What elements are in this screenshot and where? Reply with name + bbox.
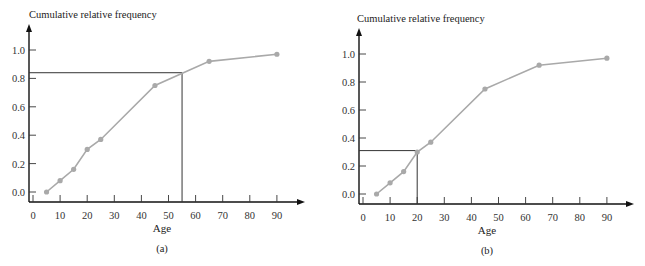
y-axis-arrow-icon	[356, 28, 362, 36]
axes: 01020304050607080900.00.20.40.60.81.0	[12, 24, 305, 221]
data-point	[71, 167, 76, 172]
reference-lines	[359, 151, 417, 204]
x-tick-label: 60	[190, 210, 201, 221]
reference-lines	[29, 73, 182, 202]
x-axis-title: Age	[478, 224, 496, 236]
x-tick-label: 80	[245, 210, 256, 221]
data-point	[152, 83, 157, 88]
x-axis-title: Age	[153, 222, 171, 234]
chart-panel-a: Cumulative relative frequency Age (a) 01…	[12, 9, 305, 255]
data-point	[85, 147, 90, 152]
data-point	[98, 137, 103, 142]
y-tick-label: 0.8	[342, 77, 355, 88]
x-tick-label: 80	[575, 212, 586, 223]
data-point	[58, 178, 63, 183]
data-point	[374, 191, 379, 196]
y-axis-title: Cumulative relative frequency	[357, 13, 485, 24]
data-point	[604, 56, 609, 61]
data-point	[274, 52, 279, 57]
data-point	[537, 63, 542, 68]
y-tick-label: 0.4	[342, 133, 356, 144]
panel-caption: (a)	[156, 243, 168, 255]
y-tick-label: 0.2	[12, 159, 25, 170]
x-tick-label: 10	[55, 210, 66, 221]
x-tick-label: 20	[82, 210, 93, 221]
series-line	[377, 58, 607, 194]
x-tick-label: 60	[520, 212, 531, 223]
y-tick-label: 1.0	[12, 45, 25, 56]
y-tick-label: 0.6	[342, 105, 355, 116]
chart-panel-b: Cumulative relative frequency Age (b) 01…	[342, 13, 634, 257]
x-tick-label: 0	[30, 210, 35, 221]
series-line	[47, 54, 277, 192]
x-tick-label: 70	[217, 210, 228, 221]
y-tick-label: 1.0	[342, 49, 355, 60]
figure: Cumulative relative frequency Age (a) 01…	[0, 0, 645, 266]
x-axis-arrow-icon	[626, 201, 634, 207]
x-tick-label: 90	[272, 210, 283, 221]
x-tick-label: 40	[466, 212, 477, 223]
data-series	[374, 56, 610, 197]
x-tick-label: 50	[163, 210, 174, 221]
y-axis-arrow-icon	[26, 24, 32, 32]
y-tick-label: 0.2	[342, 161, 355, 172]
x-tick-label: 40	[136, 210, 147, 221]
data-point	[207, 59, 212, 64]
data-point	[388, 180, 393, 185]
y-tick-label: 0.0	[342, 189, 355, 200]
data-point	[428, 140, 433, 145]
x-axis-arrow-icon	[297, 199, 305, 205]
data-point	[415, 149, 420, 154]
x-tick-label: 70	[547, 212, 558, 223]
x-tick-label: 10	[385, 212, 396, 223]
data-point	[44, 189, 49, 194]
x-tick-label: 30	[439, 212, 450, 223]
y-tick-label: 0.4	[12, 130, 26, 141]
x-tick-label: 30	[109, 210, 120, 221]
x-tick-label: 0	[360, 212, 365, 223]
y-tick-label: 0.0	[12, 187, 25, 198]
data-point	[482, 86, 487, 91]
x-tick-label: 20	[412, 212, 423, 223]
y-axis-title: Cumulative relative frequency	[29, 9, 157, 20]
x-tick-label: 90	[602, 212, 613, 223]
data-point	[401, 169, 406, 174]
y-tick-label: 0.6	[12, 102, 25, 113]
axes: 01020304050607080900.00.20.40.60.81.0	[342, 28, 634, 223]
panel-caption: (b)	[481, 245, 494, 257]
x-tick-label: 50	[493, 212, 504, 223]
figure-canvas: Cumulative relative frequency Age (a) 01…	[0, 0, 645, 266]
y-tick-label: 0.8	[12, 73, 25, 84]
